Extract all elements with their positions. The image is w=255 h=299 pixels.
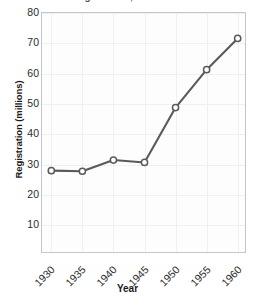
y-axis-tick-label: 20 [5,189,39,199]
y-axis-tick-label: 50 [5,98,39,108]
line-chart: Registration, 1930-1960 Registration (mi… [0,0,255,299]
data-point-marker [204,67,210,73]
data-point-marker [235,35,241,41]
data-point-marker [172,104,178,110]
data-point-marker [48,168,54,174]
data-series-registration [42,13,246,253]
data-point-marker [110,157,116,163]
y-axis-tick-label: 80 [5,7,39,17]
y-axis-tick-label: 40 [5,128,39,138]
data-point-marker [79,168,85,174]
chart-title: Registration, 1930-1960 [0,0,255,3]
y-axis-tick-label: 30 [5,159,39,169]
series-markers [48,35,241,174]
y-axis-tick-label: 70 [5,37,39,47]
plot-area [41,12,246,253]
data-point-marker [141,159,147,165]
y-axis-tick-label: 60 [5,68,39,78]
series-line [51,38,237,171]
y-axis-tick-label: 10 [5,219,39,229]
x-axis-title: Year [0,283,255,294]
